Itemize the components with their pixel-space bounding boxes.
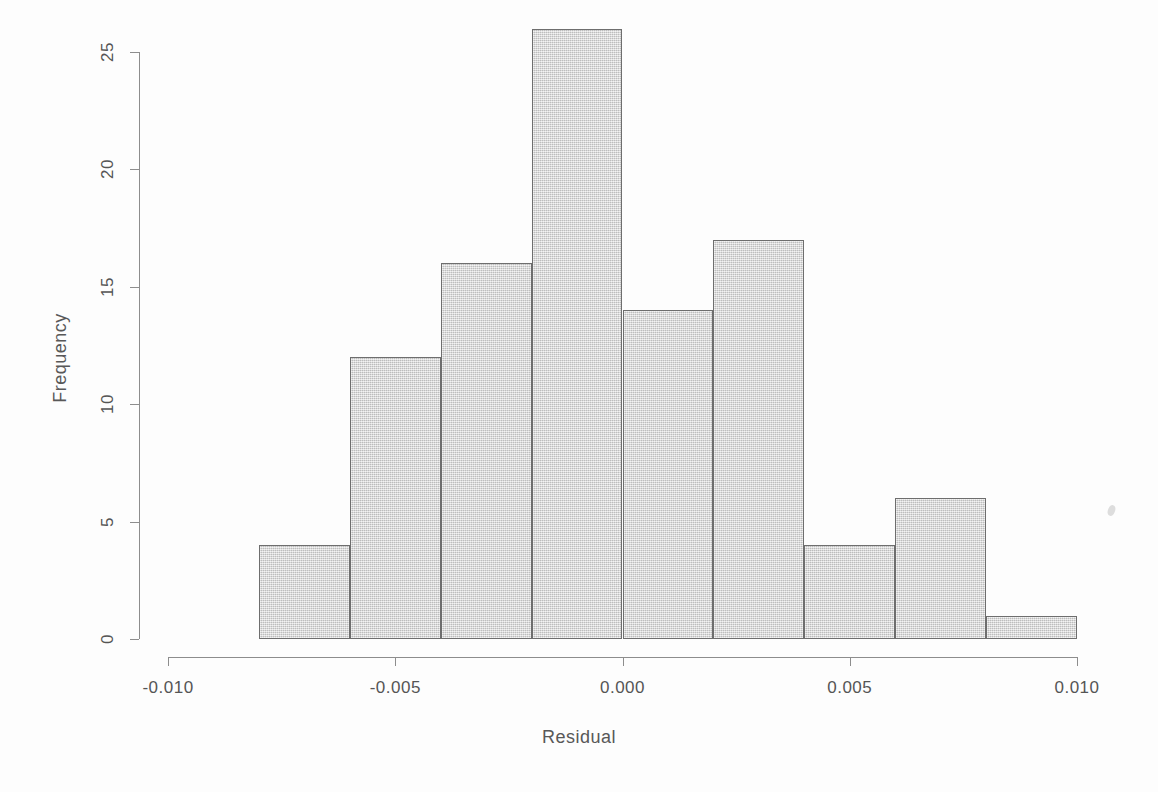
histogram-bar — [986, 616, 1077, 639]
x-axis-tick-label: 0.005 — [827, 678, 872, 698]
y-axis-tick-label: 25 — [98, 42, 118, 62]
y-axis-tick — [130, 522, 139, 523]
y-axis-tick — [130, 639, 139, 640]
y-axis-title: Frequency — [50, 313, 71, 403]
y-axis-tick-label: 5 — [98, 517, 118, 527]
y-axis-tick — [130, 287, 139, 288]
y-axis-tick — [130, 52, 139, 53]
x-axis-tick — [1077, 657, 1078, 666]
histogram-bar — [713, 240, 804, 639]
y-axis-tick — [130, 404, 139, 405]
x-axis-tick — [168, 657, 169, 666]
histogram-figure: -0.010-0.0050.0000.0050.0100510152025 Re… — [0, 0, 1158, 792]
histogram-bar — [350, 357, 441, 639]
histogram-bar — [895, 498, 986, 639]
y-axis-tick-label: 10 — [98, 394, 118, 414]
x-axis-tick-label: 0.010 — [1054, 678, 1099, 698]
plot-area: -0.010-0.0050.0000.0050.0100510152025 — [0, 0, 1158, 792]
x-axis-tick-label: 0.000 — [600, 678, 645, 698]
x-axis-title: Residual — [0, 727, 1158, 748]
y-axis-tick-label: 20 — [98, 159, 118, 179]
histogram-bar — [804, 545, 895, 639]
x-axis-tick — [623, 657, 624, 666]
x-axis-tick — [395, 657, 396, 666]
x-axis-tick — [850, 657, 851, 666]
x-axis-tick-label: -0.005 — [370, 678, 421, 698]
histogram-bar — [259, 545, 350, 639]
y-axis-tick-label: 15 — [98, 277, 118, 297]
y-axis-tick — [130, 169, 139, 170]
histogram-bar — [532, 29, 623, 639]
y-axis-tick-label: 0 — [98, 634, 118, 644]
histogram-bar — [441, 263, 532, 639]
x-axis-tick-label: -0.010 — [142, 678, 193, 698]
histogram-bar — [623, 310, 714, 639]
y-axis-line — [139, 52, 140, 639]
